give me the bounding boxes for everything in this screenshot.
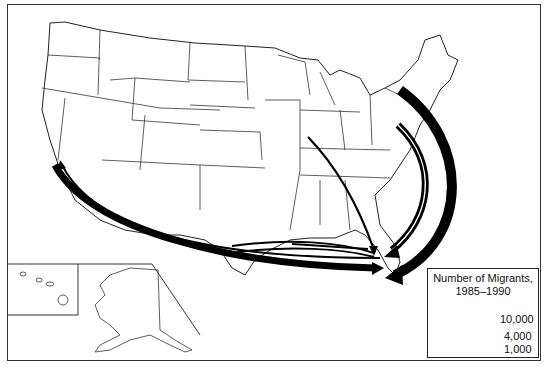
inset-borders (8, 264, 200, 335)
legend-label-10000: 10,000 (500, 313, 534, 325)
legend-title-line1: Number of Migrants, (428, 272, 538, 285)
legend-title: Number of Migrants, 1985–1990 (428, 272, 538, 298)
us-outline (42, 22, 458, 275)
flow-arrow-california (55, 165, 375, 268)
legend: Number of Migrants, 1985–1990 10,000 4,0… (427, 268, 539, 358)
legend-title-line2: 1985–1990 (428, 285, 538, 298)
flow-arrows (55, 90, 452, 285)
legend-label-4000: 4,000 (504, 330, 532, 342)
hawaii-islands (20, 272, 68, 305)
state-borders (42, 30, 410, 230)
flow-arrow-midatlantic (392, 125, 425, 250)
flow-arrow-midwest (308, 137, 374, 250)
alaska-outline (95, 268, 192, 352)
legend-label-1000: 1,000 (504, 343, 532, 355)
